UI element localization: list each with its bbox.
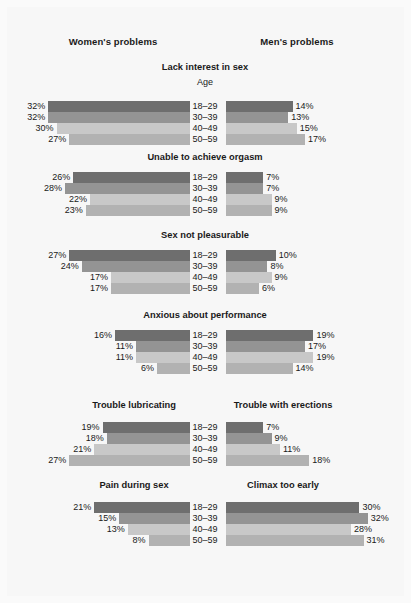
women-bar <box>48 101 190 112</box>
bar-rows: 21%18–2930%15%30–3932%13%40–4928%8%50–59… <box>0 502 411 546</box>
men-bar <box>226 101 293 112</box>
men-value-label: 10% <box>279 250 297 261</box>
age-category-label: 18–29 <box>192 250 217 261</box>
men-value-label: 15% <box>300 123 318 134</box>
men-value-label: 19% <box>316 352 334 363</box>
men-bar <box>226 172 263 183</box>
bar-row: 32%30–3913% <box>0 112 411 123</box>
men-value-label: 14% <box>296 101 314 112</box>
women-value-label: 23% <box>65 205 83 216</box>
women-value-label: 32% <box>27 112 45 123</box>
age-category-label: 18–29 <box>192 101 217 112</box>
bar-rows: 26%18–297%28%30–397%22%40–499%23%50–599% <box>0 172 411 216</box>
women-bar <box>94 444 190 455</box>
women-value-label: 21% <box>73 502 91 513</box>
bar-rows: 19%18–297%18%30–399%21%40–4911%27%50–591… <box>0 422 411 466</box>
women-bar <box>90 194 190 205</box>
women-value-label: 17% <box>90 272 108 283</box>
women-value-label: 13% <box>107 524 125 535</box>
women-value-label: 27% <box>48 250 66 261</box>
age-category-label: 30–39 <box>192 261 217 272</box>
bar-row: 17%50–596% <box>0 283 411 294</box>
bar-row: 8%50–5931% <box>0 535 411 546</box>
women-bar <box>103 422 190 433</box>
bar-row: 23%50–599% <box>0 205 411 216</box>
women-value-label: 27% <box>48 455 66 466</box>
age-category-label: 50–59 <box>192 134 217 145</box>
women-bar <box>69 134 190 145</box>
women-bar <box>157 363 190 374</box>
bar-row: 11%40–4919% <box>0 352 411 363</box>
men-bar <box>226 422 263 433</box>
bar-row: 27%50–5918% <box>0 455 411 466</box>
bar-rows: 16%18–2919%11%30–3917%11%40–4919%6%50–59… <box>0 330 411 374</box>
section-title-men: Climax too early <box>247 480 319 490</box>
bar-row: 28%30–397% <box>0 183 411 194</box>
age-category-label: 50–59 <box>192 283 217 294</box>
women-value-label: 21% <box>73 444 91 455</box>
women-bar <box>94 502 190 513</box>
age-category-label: 40–49 <box>192 352 217 363</box>
men-bar <box>226 183 263 194</box>
men-value-label: 9% <box>275 272 288 283</box>
section-title: Unable to achieve orgasm <box>147 152 262 162</box>
bar-rows: 32%18–2914%32%30–3913%30%40–4915%27%50–5… <box>0 101 411 145</box>
men-value-label: 7% <box>266 422 279 433</box>
bar-row: 15%30–3932% <box>0 513 411 524</box>
women-bar <box>107 433 190 444</box>
age-category-label: 40–49 <box>192 123 217 134</box>
men-problems-heading: Men's problems <box>260 36 333 47</box>
women-bar <box>136 352 190 363</box>
men-value-label: 32% <box>371 513 389 524</box>
age-category-label: 50–59 <box>192 455 217 466</box>
men-bar <box>226 444 280 455</box>
section-title-women: Trouble lubricating <box>92 400 176 410</box>
age-axis-caption: Age <box>197 77 213 87</box>
men-bar <box>226 513 368 524</box>
women-value-label: 11% <box>116 352 133 363</box>
men-value-label: 8% <box>270 261 283 272</box>
women-value-label: 24% <box>61 261 79 272</box>
bar-rows: 27%18–2910%24%30–398%17%40–499%17%50–596… <box>0 250 411 294</box>
age-category-label: 50–59 <box>192 363 217 374</box>
women-value-label: 19% <box>82 422 100 433</box>
section-title: Lack interest in sex <box>162 62 248 72</box>
men-bar <box>226 433 272 444</box>
women-bar <box>65 183 190 194</box>
section-title: Sex not pleasurable <box>161 230 249 240</box>
men-value-label: 7% <box>266 172 279 183</box>
men-value-label: 13% <box>291 112 309 123</box>
age-category-label: 30–39 <box>192 341 217 352</box>
men-value-label: 17% <box>308 134 326 145</box>
women-value-label: 6% <box>141 363 154 374</box>
bar-row: 21%18–2930% <box>0 502 411 513</box>
bar-row: 11%30–3917% <box>0 341 411 352</box>
men-bar <box>226 283 259 294</box>
section-title: Anxious about performance <box>143 310 266 320</box>
men-bar <box>226 123 297 134</box>
bar-row: 32%18–2914% <box>0 101 411 112</box>
age-category-label: 18–29 <box>192 330 217 341</box>
bar-row: 22%40–499% <box>0 194 411 205</box>
women-value-label: 28% <box>44 183 62 194</box>
men-value-label: 18% <box>312 455 330 466</box>
men-value-label: 9% <box>275 194 288 205</box>
age-category-label: 30–39 <box>192 112 217 123</box>
women-value-label: 26% <box>52 172 70 183</box>
bar-row: 18%30–399% <box>0 433 411 444</box>
men-bar <box>226 250 276 261</box>
bar-row: 13%40–4928% <box>0 524 411 535</box>
age-category-label: 40–49 <box>192 194 217 205</box>
age-category-label: 40–49 <box>192 272 217 283</box>
men-bar <box>226 134 305 145</box>
women-value-label: 27% <box>48 134 66 145</box>
women-bar <box>48 112 190 123</box>
age-category-label: 18–29 <box>192 172 217 183</box>
women-value-label: 22% <box>69 194 87 205</box>
women-bar <box>111 272 190 283</box>
age-category-label: 40–49 <box>192 444 217 455</box>
men-value-label: 6% <box>262 283 275 294</box>
men-bar <box>226 455 309 466</box>
men-bar <box>226 205 272 216</box>
men-bar <box>226 502 359 513</box>
